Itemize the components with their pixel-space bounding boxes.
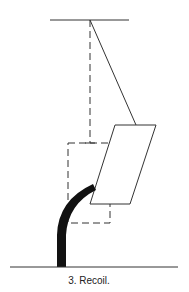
displaced-weight-parallelogram (90, 125, 156, 204)
bent-stem (57, 184, 96, 267)
pendulum-string (90, 20, 136, 125)
recoil-diagram (0, 0, 189, 292)
figure-caption: 3. Recoil. (0, 275, 178, 286)
